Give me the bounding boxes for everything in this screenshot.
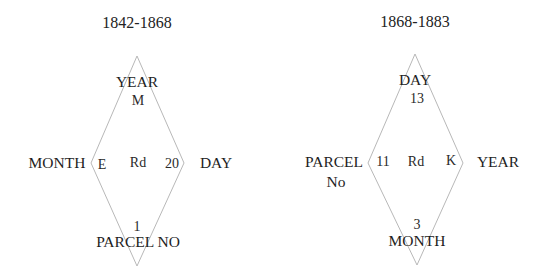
bottom-label-parcel-no: PARCEL NO	[96, 234, 180, 250]
right-label-day: DAY	[200, 155, 232, 171]
left-code: E	[98, 158, 107, 172]
top-label-year: YEAR	[116, 74, 158, 90]
center-code: Rd	[130, 156, 146, 170]
diagram-title: 1868-1883	[380, 14, 449, 30]
bottom-label-month: MONTH	[389, 233, 446, 249]
left-label-no: No	[327, 174, 346, 190]
diagram-1868-1883: 1868-1883 DAY 13 PARCEL No 11 Rd K YEAR …	[270, 0, 543, 276]
center-code: Rd	[408, 155, 424, 169]
right-code: K	[446, 154, 456, 168]
diagram-title: 1842-1868	[102, 15, 171, 31]
bottom-code: 3	[414, 218, 421, 232]
top-label-day: DAY	[399, 72, 431, 88]
left-label-parcel: PARCEL	[305, 154, 363, 170]
top-code: 13	[410, 92, 424, 106]
top-code: M	[132, 94, 144, 108]
bottom-code: 1	[134, 220, 141, 234]
left-code: 11	[376, 155, 389, 169]
right-label-year: YEAR	[477, 154, 519, 170]
right-code: 20	[165, 157, 179, 171]
diagram-1842-1868: 1842-1868 YEAR M MONTH E Rd 20 DAY 1 PAR…	[0, 0, 270, 276]
left-label-month: MONTH	[29, 155, 86, 171]
